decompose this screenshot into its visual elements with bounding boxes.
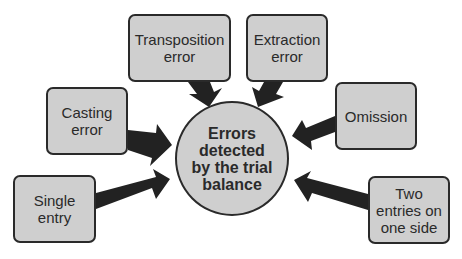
node-label: Two entries on one side <box>376 185 442 236</box>
arrow-omission <box>292 116 335 150</box>
node-label: Single entry <box>34 192 76 226</box>
arrow-single <box>96 169 170 209</box>
node-label: Transposition error <box>135 31 225 65</box>
node-label: Extraction error <box>254 31 321 65</box>
node-extraction-error: Extraction error <box>246 14 328 82</box>
center-node-errors-detected: Errors detected by the trial balance <box>175 101 289 216</box>
node-two-entries-on-one-side: Two entries on one side <box>368 176 450 244</box>
node-label: Casting error <box>62 104 113 138</box>
node-single-entry: Single entry <box>13 175 96 243</box>
node-label: Omission <box>345 108 408 125</box>
center-label: Errors detected by the trial balance <box>192 125 273 193</box>
node-transposition-error: Transposition error <box>128 14 231 82</box>
node-omission: Omission <box>335 82 417 150</box>
arrow-extraction <box>252 82 284 107</box>
arrow-two <box>294 171 368 210</box>
arrow-casting <box>128 124 172 166</box>
node-casting-error: Casting error <box>46 87 128 155</box>
